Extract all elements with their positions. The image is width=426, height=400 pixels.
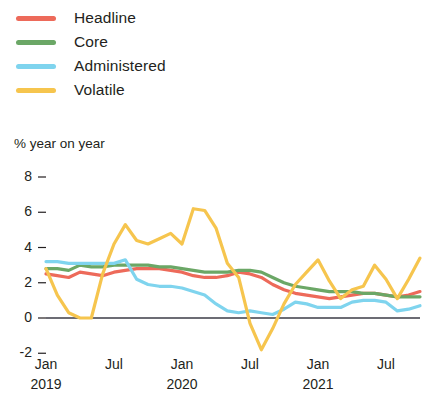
plot-area: 86420-2 Jan2019JulJan2020JulJan2021Jul xyxy=(0,160,426,360)
x-tick-month-label: Jan xyxy=(23,356,69,372)
series-line-volatile xyxy=(46,209,420,350)
legend-label-administered: Administered xyxy=(74,57,166,75)
y-tick-marks xyxy=(38,177,46,353)
x-tick-year-label: 2021 xyxy=(295,376,341,392)
y-tick-label: 8 xyxy=(6,168,32,184)
x-tick-year-label: 2019 xyxy=(23,376,69,392)
legend-swatch-headline xyxy=(16,16,56,21)
legend-item-headline: Headline xyxy=(16,6,276,30)
legend-label-volatile: Volatile xyxy=(74,81,125,99)
legend-label-headline: Headline xyxy=(74,9,136,27)
x-tick-month-label: Jul xyxy=(363,356,409,372)
legend-item-volatile: Volatile xyxy=(16,78,276,102)
y-tick-label: 4 xyxy=(6,239,32,255)
x-tick-month-label: Jan xyxy=(159,356,205,372)
y-axis-title: % year on year xyxy=(14,136,105,151)
legend-swatch-core xyxy=(16,40,56,45)
x-tick-month-label: Jan xyxy=(295,356,341,372)
legend-swatch-administered xyxy=(16,64,56,69)
legend-swatch-volatile xyxy=(16,88,56,93)
y-tick-label: 0 xyxy=(6,309,32,325)
x-tick-month-label: Jul xyxy=(91,356,137,372)
y-tick-label: 6 xyxy=(6,203,32,219)
legend-label-core: Core xyxy=(74,33,108,51)
legend-item-administered: Administered xyxy=(16,54,276,78)
x-tick-month-label: Jul xyxy=(227,356,273,372)
legend-item-core: Core xyxy=(16,30,276,54)
y-tick-label: 2 xyxy=(6,274,32,290)
series-lines xyxy=(46,209,420,350)
plot-svg xyxy=(0,160,426,360)
x-tick-year-label: 2020 xyxy=(159,376,205,392)
inflation-line-chart: Headline Core Administered Volatile % ye… xyxy=(0,0,426,400)
chart-legend: Headline Core Administered Volatile xyxy=(16,6,276,102)
